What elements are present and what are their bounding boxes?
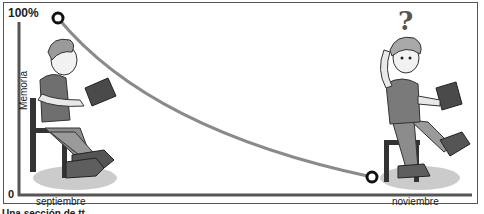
y-axis-title: Memoria bbox=[18, 66, 29, 116]
x-axis-start-label: septiembre bbox=[36, 196, 85, 207]
curve-start-point bbox=[53, 13, 63, 23]
y-axis-top-label: 100% bbox=[8, 6, 39, 20]
x-axis-end-label: noviembre bbox=[392, 196, 439, 207]
y-axis-zero-label: 0 bbox=[8, 188, 14, 200]
question-mark-icon: ? bbox=[398, 6, 413, 36]
caption-partial: Una sección de tt bbox=[2, 208, 85, 214]
student-confused-illustration bbox=[380, 37, 470, 190]
curve-end-point bbox=[367, 172, 377, 182]
